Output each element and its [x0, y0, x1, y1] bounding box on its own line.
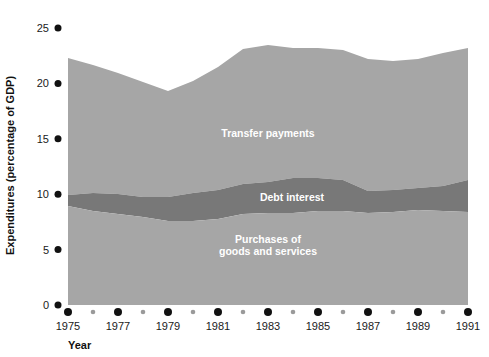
x-minor-tick-1986: [341, 310, 346, 315]
x-tick-label-1981: 1981: [206, 320, 230, 332]
x-axis-labels: 1975 1977 1979 1981 1983 1985 1987 1989 …: [56, 320, 480, 332]
x-tick-label-1987: 1987: [356, 320, 380, 332]
x-tick-label-1985: 1985: [306, 320, 330, 332]
x-major-tick-1975: [64, 308, 72, 316]
y-tick-label-5: 5: [43, 244, 49, 256]
x-tick-label-1991: 1991: [456, 320, 480, 332]
y-tick-dot-20: [55, 80, 62, 87]
y-axis-title: Expenditures (percentage of GDP): [4, 76, 16, 255]
x-axis-title: Year: [68, 339, 92, 351]
x-major-tick-1983: [264, 308, 272, 316]
x-major-tick-1989: [414, 308, 422, 316]
x-minor-tick-1978: [141, 310, 146, 315]
y-tick-dot-25: [55, 25, 62, 32]
y-tick-dot-5: [55, 246, 62, 253]
x-major-tick-1987: [364, 308, 372, 316]
x-major-tick-1979: [164, 308, 172, 316]
label-purchases-line1: Purchases of: [235, 233, 301, 245]
y-tick-dot-0: [55, 302, 62, 309]
x-tick-label-1975: 1975: [56, 320, 80, 332]
y-tick-dot-10: [55, 191, 62, 198]
x-minor-tick-1988: [391, 310, 396, 315]
x-minor-tick-1976: [91, 310, 96, 315]
y-tick-dot-15: [55, 135, 62, 142]
x-minor-tick-1980: [191, 310, 196, 315]
x-major-tick-1985: [314, 308, 322, 316]
plot-area: [68, 45, 468, 305]
y-tick-label-20: 20: [37, 77, 49, 89]
y-tick-label-10: 10: [37, 188, 49, 200]
label-purchases-line2: goods and services: [219, 245, 317, 257]
x-tick-label-1989: 1989: [406, 320, 430, 332]
stacked-area-chart: 25 20 15 10 5 0: [0, 0, 489, 357]
x-minor-tick-1990: [441, 310, 446, 315]
y-tick-label-0: 0: [43, 299, 49, 311]
x-tick-label-1979: 1979: [156, 320, 180, 332]
x-tick-label-1977: 1977: [106, 320, 130, 332]
label-debt-interest: Debt interest: [260, 191, 325, 203]
y-tick-label-25: 25: [37, 22, 49, 34]
y-tick-label-15: 15: [37, 133, 49, 145]
x-major-tick-1977: [114, 308, 122, 316]
x-major-tick-1991: [464, 308, 472, 316]
label-transfer-payments: Transfer payments: [221, 127, 315, 139]
x-major-tick-1981: [214, 308, 222, 316]
chart-page: 25 20 15 10 5 0: [0, 0, 489, 357]
x-tick-label-1983: 1983: [256, 320, 280, 332]
x-minor-tick-1982: [241, 310, 246, 315]
x-minor-tick-1984: [291, 310, 296, 315]
